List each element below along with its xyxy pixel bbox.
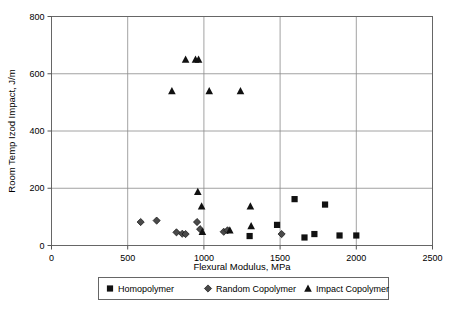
- x-tick-label: 0: [49, 253, 54, 263]
- data-point-square: [353, 232, 359, 238]
- x-tick-label: 2500: [422, 253, 442, 263]
- legend-label-1: Random Copolymer: [216, 284, 296, 294]
- x-axis-title: Flexural Modulus, MPa: [193, 261, 291, 272]
- data-point-square: [301, 234, 307, 240]
- data-point-square: [247, 233, 253, 239]
- x-tick-label: 500: [120, 253, 135, 263]
- y-tick-label: 600: [29, 69, 44, 79]
- x-tick-label: 2000: [346, 253, 366, 263]
- data-point-square: [311, 231, 317, 237]
- data-point-square: [322, 201, 328, 207]
- data-point-square: [291, 196, 297, 202]
- square-marker-icon: [107, 285, 113, 291]
- chart-svg: 05001000150020002500 0200400600800 Flexu…: [0, 0, 451, 311]
- y-tick-label: 0: [39, 241, 44, 251]
- legend-entries: HomopolymerRandom CopolymerImpact Copoly…: [107, 284, 389, 294]
- y-tick-label: 800: [29, 12, 44, 22]
- data-point-square: [336, 232, 342, 238]
- y-tick-label: 400: [29, 126, 44, 136]
- scatter-chart-figure: 05001000150020002500 0200400600800 Flexu…: [0, 0, 451, 311]
- data-point-square: [274, 222, 280, 228]
- legend-label-2: Impact Copolymer: [316, 284, 389, 294]
- y-axis-title: Room Temp Izod Impact, J/m: [6, 69, 17, 192]
- y-tick-label: 200: [29, 183, 44, 193]
- legend-label-0: Homopolymer: [118, 284, 174, 294]
